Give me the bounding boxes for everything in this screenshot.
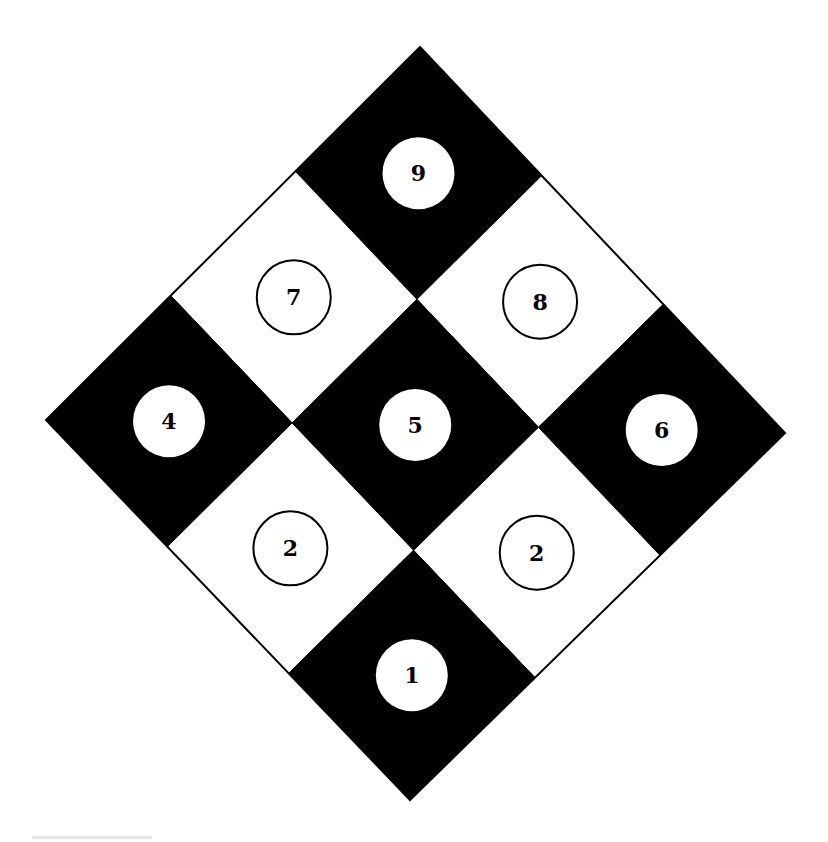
cell-number-label: 1 <box>404 662 419 688</box>
cell-marker: 7 <box>257 260 331 334</box>
cell-number-label: 2 <box>283 535 298 561</box>
cell-number-label: 6 <box>654 417 669 443</box>
cell-marker: 9 <box>382 137 454 209</box>
cell-number-label: 9 <box>411 160 426 186</box>
cell-marker: 1 <box>376 639 448 711</box>
faded-caption-residue <box>32 836 152 839</box>
cell-marker: 8 <box>503 265 577 339</box>
cell-marker: 2 <box>500 516 574 590</box>
cell-marker: 5 <box>379 389 451 461</box>
cell-number-label: 2 <box>529 540 544 566</box>
checker-diamond-diagram: 986752421 <box>0 0 828 842</box>
cell-number-label: 8 <box>532 289 547 315</box>
cell-marker: 6 <box>626 394 698 466</box>
cell-number-label: 4 <box>161 408 176 434</box>
cell-number-label: 5 <box>408 412 423 438</box>
cell-number-label: 7 <box>286 284 301 310</box>
cell-marker: 4 <box>133 385 205 457</box>
cell-marker: 2 <box>253 511 327 585</box>
